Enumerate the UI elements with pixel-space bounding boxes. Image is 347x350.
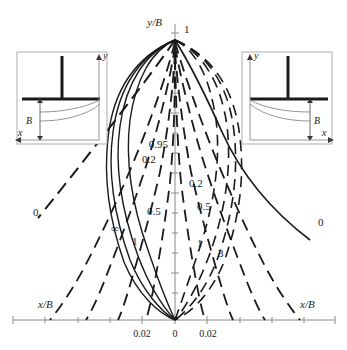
curve-label-right-02: 0.2 — [189, 177, 203, 189]
displacement-profile-chart: y/B 1 0.95 x/B x/B 0.02 0 0.02 — [0, 0, 347, 350]
inset-right-x-label: x — [321, 127, 327, 138]
curve-label-right-3: 3 — [218, 247, 224, 259]
x-axis-label-left: x/B — [37, 298, 53, 310]
curve-label-left-05: 0.5 — [147, 205, 161, 217]
curve-label-right-1: 1 — [197, 237, 203, 249]
inset-right-y-label: y — [253, 50, 259, 61]
inset-left-b-label: B — [26, 115, 32, 126]
curve-label-left-02: 0.2 — [142, 153, 156, 165]
inset-right-foundation: B y x — [242, 50, 334, 144]
inset-right-b-label: B — [314, 115, 320, 126]
inset-left-y-label: y — [102, 50, 108, 61]
curve-label-left-inf: ∞ — [111, 222, 119, 234]
x-tick-zero: 0 — [173, 328, 178, 339]
y-axis-label: y/B — [146, 16, 162, 28]
curve-left-05 — [118, 40, 175, 320]
x-axis-label-right: x/B — [299, 298, 315, 310]
curve-label-right-05: 0.5 — [197, 200, 211, 212]
inset-left-x-label: x — [17, 127, 23, 138]
curve-left-1 — [111, 40, 175, 320]
curve-label-left-0: 0 — [33, 206, 39, 218]
curve-right-3 — [175, 40, 242, 320]
x-tick-left-002: 0.02 — [133, 328, 151, 339]
curve-label-left-1: 1 — [132, 235, 138, 247]
y-tick-1: 1 — [184, 23, 190, 35]
inset-left-foundation: B y x — [15, 50, 108, 144]
curve-label-right-0: 0 — [318, 216, 324, 228]
x-tick-right-002: 0.02 — [199, 328, 217, 339]
curve-right-1 — [175, 40, 236, 320]
curve-left-02 — [128, 40, 175, 320]
